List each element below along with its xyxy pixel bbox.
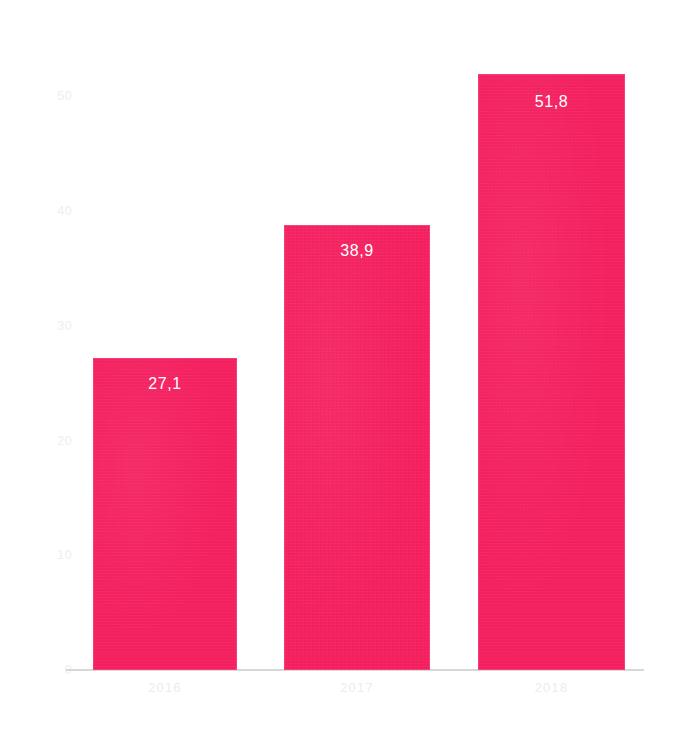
y-tick-label-0: 0 xyxy=(16,664,72,677)
x-tick-label-2017: 2017 xyxy=(284,681,430,694)
y-axis: 50 40 30 20 10 0 xyxy=(10,0,72,729)
x-tick-label-2018: 2018 xyxy=(478,681,625,694)
y-tick-label-50: 50 xyxy=(16,90,72,103)
bar-value-label-2017: 38,9 xyxy=(284,243,430,259)
y-tick-label-40: 40 xyxy=(16,205,72,218)
y-tick-label-30: 30 xyxy=(16,320,72,333)
x-tick-label-2016: 2016 xyxy=(93,681,237,694)
y-tick-label-10: 10 xyxy=(16,549,72,562)
bar-value-label-2016: 27,1 xyxy=(93,376,237,392)
bar-2016[interactable]: 27,1 xyxy=(93,358,237,670)
bar-chart: 50 40 30 20 10 0 27,1 38,9 51,8 2016 201… xyxy=(0,0,682,729)
bar-2017[interactable]: 38,9 xyxy=(284,225,430,670)
bar-2018[interactable]: 51,8 xyxy=(478,74,625,670)
y-tick-label-20: 20 xyxy=(16,435,72,448)
plot-area: 50 40 30 20 10 0 27,1 38,9 51,8 2016 201… xyxy=(0,0,682,729)
bar-value-label-2018: 51,8 xyxy=(478,94,625,110)
